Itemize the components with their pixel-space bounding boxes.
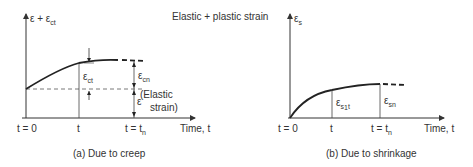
tick-tn: t = tn <box>371 123 392 136</box>
eps-cn-label: εcn <box>138 70 150 83</box>
shrinkage-curve-dashed <box>383 84 405 85</box>
y-axis-label: εs <box>294 13 302 26</box>
y-axis-label: ε + εct <box>30 13 56 26</box>
header-note: Elastic + plastic strain <box>172 11 268 22</box>
eps-s1t-label: εs1t <box>336 97 350 111</box>
tick-t0: t = 0 <box>278 123 298 134</box>
caption-b: (b) Due to shrinkage <box>326 148 417 159</box>
diagram: ε + εct εct εcn ε (Elastic strain) t = 0… <box>0 0 473 167</box>
shrinkage-curve <box>290 84 380 118</box>
tick-tn: t = tn <box>125 123 146 136</box>
panel-shrinkage: εs εs1t εsn t = 0 t t = tn Time, t (b) D… <box>278 13 454 159</box>
tick-t: t <box>330 123 333 134</box>
eps-ct-label: εct <box>83 71 93 84</box>
elastic-label-2: strain) <box>150 102 178 113</box>
tick-t0: t = 0 <box>17 123 37 134</box>
caption-a: (a) Due to creep <box>73 148 146 159</box>
x-axis-label: Time, t <box>424 123 454 134</box>
panel-creep: ε + εct εct εcn ε (Elastic strain) t = 0… <box>17 13 210 159</box>
x-axis-label: Time, t <box>180 123 210 134</box>
tick-t: t <box>77 123 80 134</box>
creep-curve <box>26 60 118 89</box>
eps-sn-label: εsn <box>384 95 396 108</box>
creep-curve-dashed <box>122 60 146 61</box>
elastic-label-1: (Elastic <box>140 89 173 100</box>
